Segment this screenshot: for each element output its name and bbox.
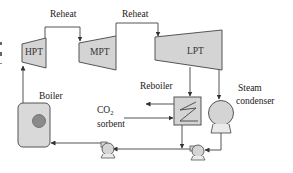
lpt-label: LPT [187,47,204,57]
sorbent-label: sorbent [97,120,125,130]
mpt-label: MPT [90,48,110,58]
co2-subscript: 2 [110,109,113,116]
condenser-base [211,124,231,133]
condenser-to-pump-line [205,133,221,150]
condenser-label: condenser [236,97,275,107]
pump-2-icon [190,145,205,160]
boiler-burner-icon [33,115,46,128]
reboiler-label: Reboiler [140,82,173,92]
reheat-label-2: Reheat [122,10,148,20]
hpt-label: HPT [25,48,43,58]
condenser-vessel [209,101,234,126]
co2-text: CO [97,105,110,115]
boiler-label: Boiler [39,92,63,102]
pump-1-icon [101,142,115,158]
left-edge-fragments [0,42,2,64]
reheat-line-1 [45,27,80,41]
reheat-label-1: Reheat [50,10,76,20]
co2-label: CO2 [97,106,113,116]
reheat-line-2 [116,23,158,36]
steam-label: Steam [238,84,262,94]
